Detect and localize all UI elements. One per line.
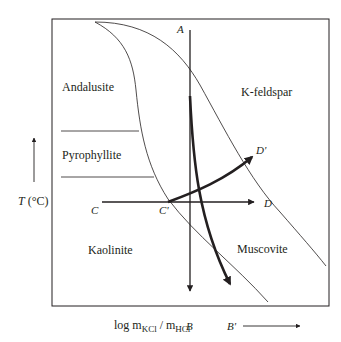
field-label-pyrophyllite: Pyrophyllite <box>62 149 121 161</box>
y-axis-unit: (°C) <box>28 194 49 208</box>
point-label-A: A <box>177 24 184 35</box>
phase-diagram <box>0 0 341 342</box>
point-label-C-prime: C' <box>159 205 169 216</box>
field-label-muscovite: Muscovite <box>237 243 288 255</box>
y-axis-var: T <box>18 194 25 208</box>
field-label-kfeldspar: K-feldspar <box>241 86 292 98</box>
field-label-andalusite: Andalusite <box>62 81 114 93</box>
y-axis-label: T (°C) <box>18 195 48 207</box>
x-axis-mid: / m <box>157 318 176 332</box>
x-axis-sub-kcl: KCl <box>142 324 157 334</box>
point-label-D: D <box>264 198 272 209</box>
x-axis-label: log mKCl / mHCl <box>114 319 190 334</box>
field-label-kaolinite: Kaolinite <box>88 244 133 256</box>
boundary-curve-right <box>95 22 326 266</box>
x-axis-prefix: log m <box>114 318 142 332</box>
boundary-curve-left <box>95 22 268 302</box>
point-label-D-prime: D' <box>256 145 266 156</box>
x-axis-sub-hcl: HCl <box>175 324 190 334</box>
point-label-B-prime: B' <box>227 321 236 332</box>
point-label-C: C <box>91 205 98 216</box>
path-C-prime-to-D-prime <box>168 157 252 202</box>
